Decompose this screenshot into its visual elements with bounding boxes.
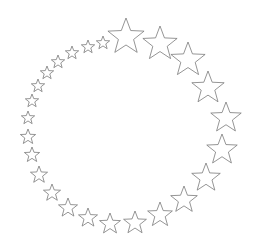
- star-icon: [100, 213, 121, 233]
- star-icon: [24, 147, 39, 161]
- star-icon: [81, 40, 94, 53]
- star-icon: [58, 198, 77, 216]
- star-icon: [211, 102, 241, 131]
- star-icon: [51, 55, 64, 68]
- star-icon: [20, 129, 35, 143]
- star-icon: [192, 71, 224, 102]
- star-icon: [171, 42, 205, 75]
- star-icon: [143, 26, 177, 59]
- star-icon: [65, 46, 78, 59]
- star-icon: [40, 66, 53, 79]
- star-icon: [31, 79, 44, 92]
- star-ring-figure: [0, 0, 258, 252]
- star-icon: [148, 202, 173, 226]
- star-icon: [192, 163, 221, 190]
- star-icon: [25, 94, 38, 107]
- star-icon: [43, 184, 60, 200]
- star-icon: [21, 111, 34, 124]
- star-icon: [108, 18, 144, 52]
- star-ring: [0, 0, 258, 252]
- star-icon: [96, 36, 109, 49]
- star-icon: [30, 166, 47, 182]
- star-icon: [78, 208, 97, 226]
- star-icon: [171, 186, 198, 211]
- star-icon: [124, 211, 147, 233]
- star-icon: [207, 134, 237, 163]
